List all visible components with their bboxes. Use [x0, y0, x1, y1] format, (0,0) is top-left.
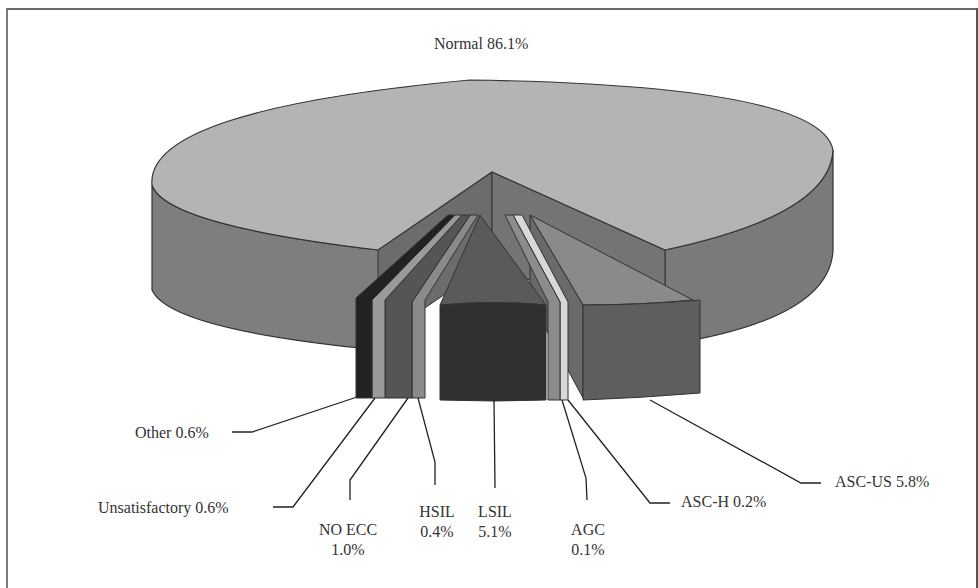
leader-asch — [568, 400, 670, 503]
label-agc: AGC 0.1% — [564, 520, 612, 560]
leader-other — [232, 396, 360, 432]
label-noecc: NO ECC 1.0% — [308, 520, 388, 560]
label-ascus: ASC-US 5.8% — [835, 472, 929, 492]
label-agc-name: AGC — [564, 520, 612, 540]
leader-hsil — [418, 398, 435, 485]
label-lsil-name: LSIL — [470, 502, 520, 522]
label-normal: Normal 86.1% — [434, 34, 528, 54]
leader-lsil — [494, 400, 495, 488]
leader-lines — [232, 396, 821, 507]
label-noecc-name: NO ECC — [308, 520, 388, 540]
label-other: Other 0.6% — [135, 423, 209, 443]
label-unsatisfactory: Unsatisfactory 0.6% — [98, 498, 229, 518]
slice-lsil-side — [440, 303, 546, 402]
leader-ascus — [650, 400, 821, 483]
leader-agc — [562, 400, 587, 500]
slice-ascus-side — [583, 300, 700, 400]
label-hsil-name: HSIL — [412, 502, 462, 522]
label-hsil: HSIL 0.4% — [412, 502, 462, 542]
label-agc-value: 0.1% — [564, 540, 612, 560]
label-asch: ASC-H 0.2% — [681, 492, 766, 512]
leader-unsat — [273, 398, 375, 507]
label-noecc-value: 1.0% — [308, 540, 388, 560]
label-lsil: LSIL 5.1% — [470, 502, 520, 542]
label-hsil-value: 0.4% — [412, 522, 462, 542]
leader-noecc — [350, 398, 408, 500]
label-lsil-value: 5.1% — [470, 522, 520, 542]
